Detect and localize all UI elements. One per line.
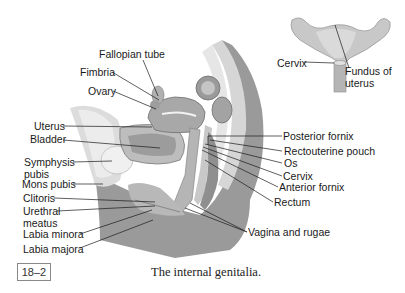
- label-symphysis-pubis-line1: Symphysis: [24, 156, 75, 168]
- label-anterior-fornix: Anterior fornix: [279, 181, 344, 193]
- figure-number: 18–2: [17, 263, 51, 281]
- label-bladder: Bladder: [30, 133, 66, 145]
- label-clitoris: Clitoris: [23, 192, 55, 204]
- label-fimbria: Fimbria: [80, 66, 115, 78]
- inset-label-fundus: Fundus of uterus: [345, 65, 397, 89]
- label-fallopian-tube: Fallopian tube: [99, 48, 165, 60]
- inset-label-cervix: Cervix: [277, 57, 307, 69]
- label-urethral-meatus-line1: Urethral: [23, 205, 60, 217]
- label-mons-pubis: Mons pubis: [22, 178, 76, 190]
- label-rectouterine-pouch: Rectouterine pouch: [284, 145, 375, 157]
- label-labia-majora: Labia majora: [23, 243, 84, 255]
- label-ovary: Ovary: [88, 85, 116, 97]
- label-uterus: Uterus: [34, 120, 65, 132]
- label-labia-minora: Labia minora: [23, 228, 84, 240]
- label-vagina-and-rugae: Vagina and rugae: [248, 226, 330, 238]
- label-rectum: Rectum: [274, 196, 310, 208]
- label-os: Os: [284, 157, 297, 169]
- label-posterior-fornix: Posterior fornix: [283, 130, 354, 142]
- figure-caption: The internal genitalia.: [151, 265, 261, 280]
